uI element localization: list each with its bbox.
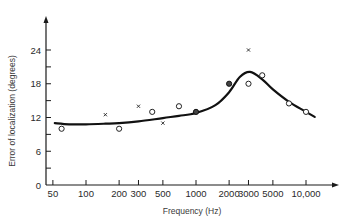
x-axis-label: Frequency (Hz) <box>163 206 222 216</box>
x-axis-arrow-icon <box>332 183 339 188</box>
x-tick-label: 3000 <box>238 188 259 199</box>
open-circle-point <box>303 109 308 114</box>
y-axis-label: Error of localization (degrees) <box>7 55 17 167</box>
x-tick-label: 100 <box>78 188 94 199</box>
y-axis-ticks: 06121824 <box>30 45 51 191</box>
open-circle-point <box>117 126 122 131</box>
open-circle-point <box>176 104 181 109</box>
x-tick-label: 50 <box>48 188 59 199</box>
fitted-curve <box>55 72 315 124</box>
y-tick-label: 0 <box>36 180 41 191</box>
axes <box>44 16 340 188</box>
open-circle-point <box>150 109 155 114</box>
x-axis-ticks: 50100200300500100020003000500010,000 <box>48 180 321 199</box>
y-tick-label: 24 <box>30 45 41 56</box>
x-tick-label: 5000 <box>262 188 283 199</box>
cross-point <box>104 113 107 116</box>
open-circle-point <box>59 126 64 131</box>
x-tick-label: 200 <box>111 188 127 199</box>
cross-point <box>247 48 250 51</box>
fitted-curve-line <box>55 72 315 124</box>
chart: 06121824 5010020030050010002000300050001… <box>0 0 350 224</box>
y-tick-label: 12 <box>30 112 41 123</box>
x-tick-label: 10,000 <box>291 188 320 199</box>
filled-circle-point <box>227 81 232 86</box>
filled-circle-point <box>193 109 198 114</box>
open-circle-point <box>286 101 291 106</box>
y-axis-arrow-icon <box>44 16 49 23</box>
open-circle-point <box>246 81 251 86</box>
x-tick-label: 1000 <box>185 188 206 199</box>
x-tick-label: 500 <box>155 188 171 199</box>
x-tick-label: 300 <box>131 188 147 199</box>
open-circle-point <box>260 73 265 78</box>
x-tick-label: 2000 <box>219 188 240 199</box>
data-points <box>59 48 309 131</box>
y-tick-label: 6 <box>36 146 41 157</box>
y-tick-label: 18 <box>30 78 41 89</box>
cross-point <box>137 105 140 108</box>
cross-point <box>161 122 164 125</box>
